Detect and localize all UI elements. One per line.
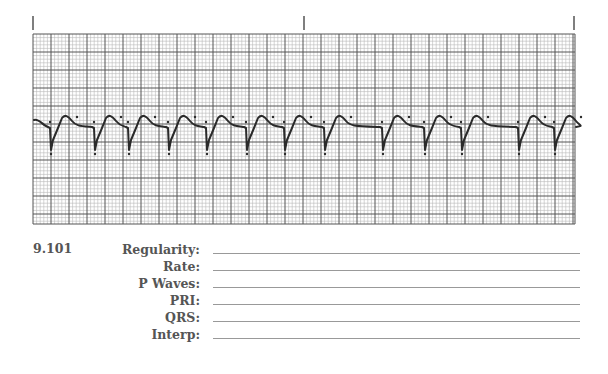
- rhythm-worksheet: 9.101 Regularity:Rate:P Waves:PRI:QRS:In…: [0, 0, 608, 374]
- answer-line[interactable]: [213, 304, 580, 305]
- answer-line[interactable]: [213, 270, 580, 271]
- field-label: Interp:: [151, 326, 200, 343]
- worksheet-field-qrs: QRS:: [0, 309, 608, 326]
- answer-line[interactable]: [213, 253, 580, 254]
- field-label: Rate:: [163, 258, 200, 275]
- field-label: P Waves:: [138, 275, 200, 292]
- field-label: QRS:: [165, 309, 200, 326]
- worksheet-field-pwaves: P Waves:: [0, 275, 608, 292]
- answer-line[interactable]: [213, 287, 580, 288]
- worksheet-field-regularity: Regularity:: [0, 241, 608, 258]
- answer-line[interactable]: [213, 321, 580, 322]
- answer-line[interactable]: [213, 338, 580, 339]
- worksheet-field-interp: Interp:: [0, 326, 608, 343]
- worksheet-field-pri: PRI:: [0, 292, 608, 309]
- field-label: PRI:: [170, 292, 200, 309]
- worksheet-field-rate: Rate:: [0, 258, 608, 275]
- field-label: Regularity:: [122, 241, 200, 258]
